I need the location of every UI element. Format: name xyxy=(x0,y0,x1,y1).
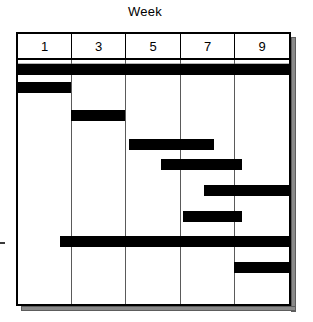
task-bar xyxy=(161,159,242,170)
week-header-label: 3 xyxy=(95,39,102,54)
left-axis-stub xyxy=(0,242,5,244)
week-header-cell-5: 5 xyxy=(125,34,180,58)
gantt-plot-area xyxy=(18,60,289,304)
task-bar xyxy=(71,110,125,121)
week-header-cell-7: 7 xyxy=(180,34,234,58)
task-bar xyxy=(204,185,289,196)
gridline-week-2 xyxy=(71,60,72,304)
gridline-week-6 xyxy=(180,60,181,304)
chart-title: Week xyxy=(0,4,290,20)
week-header-row: 1 3 5 7 9 xyxy=(18,34,289,60)
week-header-label: 5 xyxy=(149,39,156,54)
week-header-label: 9 xyxy=(258,39,265,54)
task-bar xyxy=(18,64,289,75)
week-header-cell-1: 1 xyxy=(18,34,71,58)
gridline-week-4 xyxy=(125,60,126,304)
task-bar xyxy=(60,236,289,247)
week-header-label: 7 xyxy=(204,39,211,54)
task-bar xyxy=(129,139,214,150)
week-header-cell-9: 9 xyxy=(234,34,289,58)
gantt-chart: Week 1 3 5 7 9 xyxy=(0,0,313,322)
task-bar xyxy=(183,211,242,222)
week-header-cell-3: 3 xyxy=(71,34,125,58)
task-bar xyxy=(18,82,71,93)
week-header-label: 1 xyxy=(41,39,48,54)
chart-frame: 1 3 5 7 9 xyxy=(16,32,291,306)
panel-shadow-right xyxy=(291,37,296,312)
panel-shadow-bottom xyxy=(21,306,296,311)
task-bar xyxy=(234,262,289,273)
